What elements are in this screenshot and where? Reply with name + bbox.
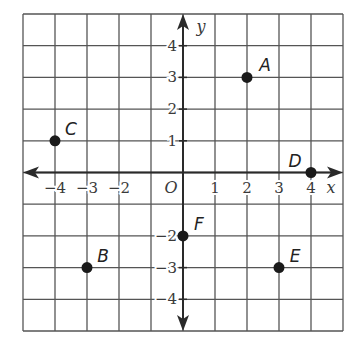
coordinate-plane: −4−3−212344321−2−3−4Oxy ABCDEF [0, 0, 361, 358]
y-tick-label: 4 [167, 37, 177, 55]
point-e-label: E [290, 246, 301, 266]
x-tick-label: −3 [76, 179, 98, 197]
y-tick-label: 2 [167, 100, 177, 118]
point-a-label: A [258, 55, 271, 75]
point-c-label: C [65, 119, 77, 139]
y-tick-label: 3 [167, 68, 177, 86]
axes [23, 14, 343, 331]
x-tick-label: 1 [210, 179, 220, 197]
x-tick-label: −4 [44, 179, 66, 197]
y-tick-label: 1 [167, 132, 177, 150]
point-e-marker [274, 262, 285, 273]
point-b-label: B [97, 246, 109, 266]
x-tick-label: −2 [108, 179, 130, 197]
x-tick-label: 2 [242, 179, 252, 197]
y-tick-label: −3 [155, 259, 177, 277]
y-tick-label: −2 [155, 227, 177, 245]
point-d-label: D [288, 151, 301, 171]
y-tick-label: −4 [155, 290, 177, 308]
point-f-label: F [194, 214, 204, 234]
point-a-marker [242, 72, 253, 83]
y-axis-label: y [195, 17, 206, 36]
point-c-marker [50, 135, 61, 146]
point-b-marker [82, 262, 93, 273]
point-d-marker [306, 167, 317, 178]
x-tick-label: 3 [274, 179, 284, 197]
origin-label: O [164, 178, 177, 197]
x-axis-label: x [326, 178, 335, 197]
point-f-marker [178, 230, 189, 241]
x-tick-label: 4 [306, 179, 316, 197]
